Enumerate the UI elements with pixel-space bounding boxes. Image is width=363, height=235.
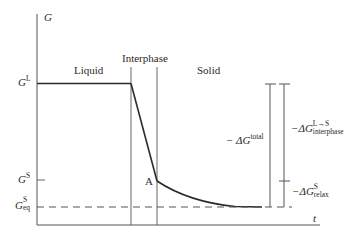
level-label-solid: GS <box>18 174 30 185</box>
interphase-drop-line <box>131 84 157 182</box>
x-axis-label: t <box>313 213 316 224</box>
delta-g-relax-sub: relax <box>314 191 329 199</box>
delta-g-total-label: − ΔGtotal <box>226 135 264 146</box>
delta-g-total-sup: total <box>250 132 263 141</box>
region-label-interphase: Interphase <box>122 53 168 64</box>
point-a-label: A <box>145 176 153 187</box>
region-label-liquid: Liquid <box>74 65 103 76</box>
level-label-liquid: GL <box>18 77 31 88</box>
level-label-solid-symbol: G <box>18 173 26 185</box>
level-label-liquid-symbol: G <box>18 76 26 88</box>
level-label-equilibrium: GSeq <box>15 199 30 214</box>
delta-g-interphase-prefix: −ΔG <box>291 122 313 134</box>
delta-g-total-prefix: − ΔG <box>226 134 250 146</box>
region-label-solid: Solid <box>197 65 220 76</box>
delta-g-relax-label: −ΔGSrelax <box>292 185 329 200</box>
level-label-equilibrium-sub: eq <box>23 204 30 212</box>
delta-g-relax-prefix: −ΔG <box>292 185 314 197</box>
delta-g-interphase-sub: interphase <box>313 128 344 136</box>
level-label-solid-sup: S <box>26 171 30 180</box>
solid-relaxation-curve <box>157 181 262 207</box>
level-label-equilibrium-symbol: G <box>15 199 23 211</box>
delta-g-interphase-label: −ΔGL→Sinterphase <box>291 122 344 137</box>
y-axis-label: G <box>44 12 52 23</box>
level-label-liquid-sup: L <box>26 74 31 83</box>
